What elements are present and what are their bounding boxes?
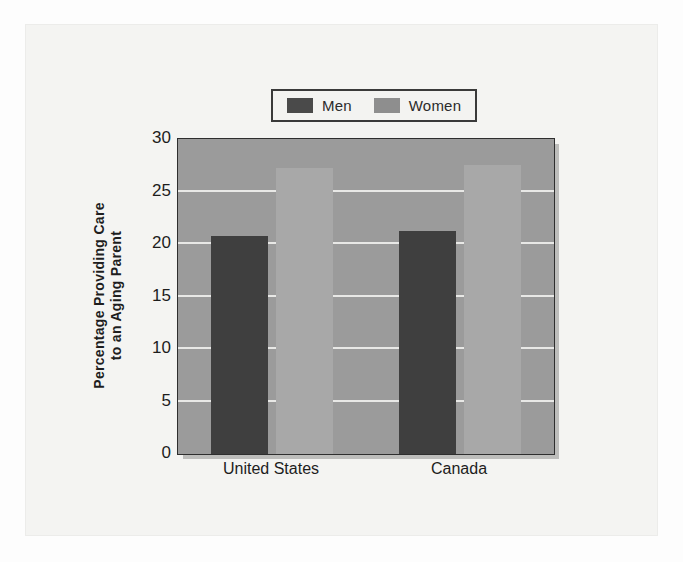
legend-swatch-women-icon (374, 98, 400, 113)
y-axis-tick-label: 30 (152, 128, 171, 148)
y-axis-tick-label: 20 (152, 233, 171, 253)
y-axis-tick-label: 10 (152, 338, 171, 358)
y-axis-title-line-2: to an Aging Parent (108, 231, 126, 360)
legend-label-women: Women (409, 97, 461, 114)
x-axis-tick-labels: United StatesCanada (177, 460, 555, 486)
legend-entry-men: Men (287, 97, 352, 114)
y-axis-title-line-1: Percentage Providing Care (91, 202, 109, 388)
bar-women-united-states (276, 168, 333, 454)
x-axis-tick-label: Canada (431, 460, 487, 478)
y-axis-tick-label: 25 (152, 181, 171, 201)
plot-area (177, 138, 555, 455)
chart-figure: Men Women Percentage Providing Care to a… (0, 0, 683, 562)
bar-women-canada (464, 165, 521, 454)
x-axis-tick-label: United States (223, 460, 319, 478)
chart-legend: Men Women (271, 89, 477, 122)
y-axis-tick-label: 5 (162, 391, 171, 411)
y-axis-tick-label: 0 (162, 443, 171, 463)
legend-swatch-men-icon (287, 98, 313, 113)
legend-entry-women: Women (374, 97, 461, 114)
bar-men-canada (399, 231, 456, 454)
y-axis-tick-labels: 051015202530 (133, 138, 171, 453)
bar-men-united-states (211, 236, 268, 454)
y-axis-tick-label: 15 (152, 286, 171, 306)
legend-label-men: Men (322, 97, 352, 114)
y-axis-title: Percentage Providing Care to an Aging Pa… (85, 138, 131, 453)
